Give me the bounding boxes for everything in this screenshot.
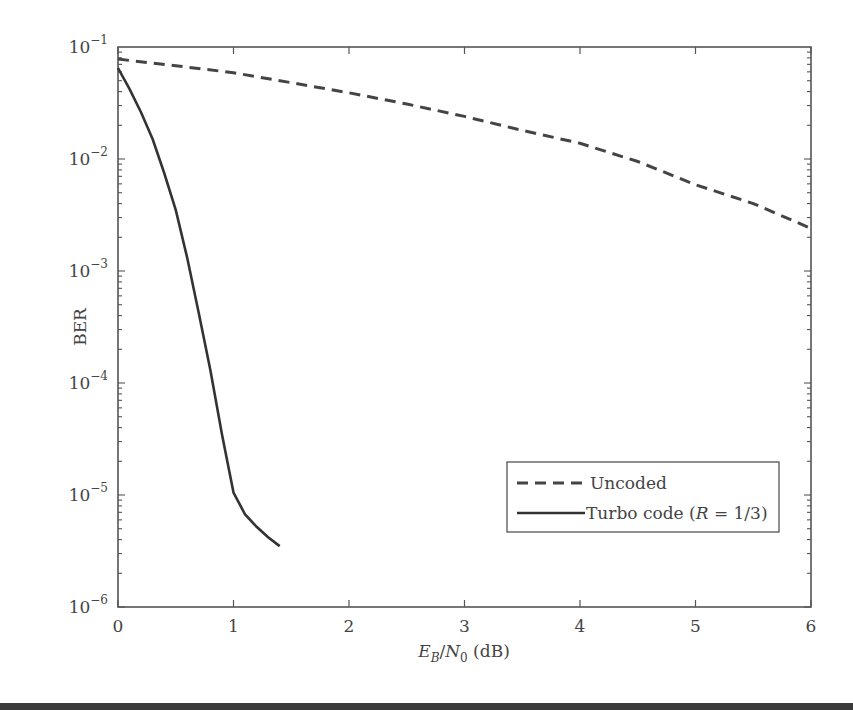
x-tick-label: 5	[690, 616, 701, 636]
y-tick-label: 10−6	[69, 593, 108, 617]
y-axis-label: BER	[70, 307, 90, 346]
legend-turbo-label: Turbo code (R = 1/3)	[586, 503, 768, 523]
x-tick-label: 4	[575, 616, 586, 636]
y-tick-label: 10−3	[69, 257, 108, 281]
x-tick-label: 0	[113, 616, 124, 636]
page-bottom-bar	[0, 703, 853, 710]
x-tick-label: 2	[344, 616, 355, 636]
y-tick-label: 10−4	[69, 369, 109, 393]
uncoded-curve	[118, 59, 811, 228]
legend-uncoded-label: Uncoded	[590, 473, 667, 493]
x-tick-label: 1	[228, 616, 239, 636]
x-tick-labels: 0123456	[113, 616, 817, 636]
y-tick-label: 10−5	[69, 481, 108, 505]
x-tick-label: 6	[806, 616, 817, 636]
turbo-code-curve	[118, 68, 280, 546]
x-tick-label: 3	[459, 616, 470, 636]
y-tick-label: 10−1	[69, 33, 108, 57]
ber-chart: 0123456 10−110−210−310−410−510−6 BER EB/…	[0, 0, 853, 710]
legend: Uncoded Turbo code (R = 1/3)	[507, 462, 779, 532]
x-axis-label: EB/N0 (dB)	[417, 641, 510, 665]
y-tick-label: 10−2	[69, 145, 108, 169]
